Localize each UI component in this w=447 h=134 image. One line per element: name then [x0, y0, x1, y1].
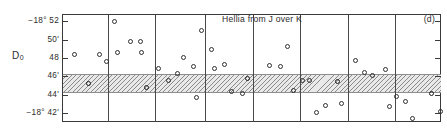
data-point: [209, 47, 214, 52]
data-point: [387, 104, 392, 109]
data-point: [353, 58, 358, 63]
y-tick-label-1: 50': [47, 35, 59, 44]
y-tick-3: [62, 76, 68, 77]
data-point: [410, 116, 415, 121]
reference-band: [63, 74, 441, 91]
y-tick-1: [62, 40, 68, 41]
plot-title: Hellia from J over K: [222, 14, 302, 24]
data-point: [307, 78, 312, 83]
data-point: [128, 39, 133, 44]
data-point: [104, 59, 109, 64]
panel-top-tick-6: [348, 14, 349, 18]
data-point: [291, 88, 296, 93]
data-point: [278, 64, 283, 69]
data-point: [199, 28, 204, 33]
y-tick-0: [62, 21, 68, 22]
data-point: [229, 89, 234, 94]
y-axis-title-main: D: [12, 50, 20, 61]
data-point: [222, 62, 227, 67]
data-point: [156, 66, 161, 71]
data-point: [212, 66, 217, 71]
panel-divider-6: [348, 14, 349, 122]
panel-divider-1: [108, 14, 109, 122]
data-point: [97, 52, 102, 57]
panel-divider-4: [253, 14, 254, 122]
data-point: [86, 81, 91, 86]
reference-band-bottom-edge: [63, 92, 441, 93]
y-tick-right-4: [435, 95, 441, 96]
y-tick-5: [62, 113, 68, 114]
data-point: [139, 50, 144, 55]
data-point: [267, 63, 272, 68]
y-tick-2: [62, 58, 68, 59]
y-tick-right-0: [435, 21, 441, 22]
y-tick-label-2: 48: [49, 53, 59, 62]
panel-top-tick-7: [395, 14, 396, 18]
y-tick-right-3: [435, 76, 441, 77]
data-point: [314, 110, 319, 115]
figure-root: D0 −18° 5250'4846'44'−18° 42' Hellia fro…: [0, 0, 447, 134]
y-axis-title: D0: [12, 50, 24, 61]
panel-divider-5: [300, 14, 301, 122]
data-point: [138, 39, 143, 44]
data-point: [335, 79, 340, 84]
data-point: [362, 70, 367, 75]
panel-top-tick-3: [205, 14, 206, 18]
data-point: [112, 19, 117, 24]
reference-band-top-edge: [63, 74, 441, 75]
data-point: [181, 55, 186, 60]
data-point: [72, 52, 77, 57]
panel-top-tick-1: [108, 14, 109, 18]
data-point: [383, 67, 388, 72]
data-point: [166, 78, 171, 83]
data-point: [144, 85, 149, 90]
y-tick-right-2: [435, 58, 441, 59]
y-tick-label-5: −18° 42': [26, 108, 59, 117]
y-tick-label-4: 44': [47, 90, 59, 99]
y-tick-label-0: −18° 52: [28, 16, 59, 25]
data-point: [175, 71, 180, 76]
data-point: [429, 91, 434, 96]
data-point: [394, 94, 399, 99]
y-tick-4: [62, 95, 68, 96]
data-point: [240, 91, 245, 96]
panel-divider-3: [205, 14, 206, 122]
data-point: [300, 78, 305, 83]
panel-top-tick-2: [155, 14, 156, 18]
data-point: [115, 50, 120, 55]
panel-tag: (d): [424, 14, 435, 24]
data-point: [339, 101, 344, 106]
data-point: [191, 64, 196, 69]
y-tick-right-1: [435, 40, 441, 41]
data-point: [245, 76, 250, 81]
data-point: [194, 95, 199, 100]
data-point: [403, 99, 408, 104]
data-point: [323, 103, 328, 108]
y-axis-title-sub: 0: [20, 54, 24, 61]
y-tick-label-3: 46': [47, 71, 59, 80]
panel-divider-7: [395, 14, 396, 122]
data-point: [370, 73, 375, 78]
